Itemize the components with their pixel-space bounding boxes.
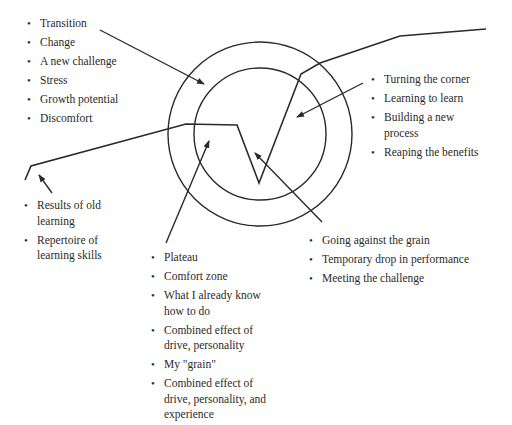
list-plateau: Plateau Comfort zone What I already know…: [150, 250, 270, 425]
list-against-grain: Going against the grain Temporary drop i…: [308, 233, 508, 290]
list-item: My "grain": [150, 357, 270, 373]
list-item: Meeting the challenge: [308, 271, 508, 287]
list-item: Plateau: [150, 250, 270, 266]
arrow-against-grain: [255, 153, 322, 222]
list-item: Results of old learning: [23, 198, 107, 229]
arrow-plateau: [166, 141, 209, 243]
list-item: What I already know how to do: [150, 288, 269, 319]
list-item: A new challenge: [26, 54, 118, 70]
list-item: Building a new process: [370, 110, 474, 141]
list-item: Transition: [26, 16, 118, 32]
arrow-results: [39, 175, 52, 193]
list-item: Going against the grain: [308, 233, 508, 249]
list-item: Combined effect of drive, personality: [150, 323, 272, 354]
list-transition: Transition Change A new challenge Stress…: [26, 16, 118, 130]
list-item: Change: [26, 35, 118, 51]
outer-circle: [168, 42, 352, 226]
list-item: Stress: [26, 73, 118, 89]
list-item: Reaping the benefits: [370, 145, 490, 161]
list-item: Learning to learn: [370, 91, 490, 107]
list-item: Comfort zone: [150, 269, 270, 285]
list-turning-corner: Turning the corner Learning to learn Bui…: [370, 72, 490, 164]
list-item: Repertoire of learning skills: [23, 233, 119, 264]
list-item: Discomfort: [26, 111, 118, 127]
list-item: Growth potential: [26, 92, 118, 108]
list-item: Combined effect of drive, personality, a…: [150, 376, 268, 423]
list-results: Results of old learning Repertoire of le…: [23, 198, 119, 267]
list-item: Turning the corner: [370, 72, 490, 88]
list-item: Temporary drop in performance: [308, 252, 508, 268]
